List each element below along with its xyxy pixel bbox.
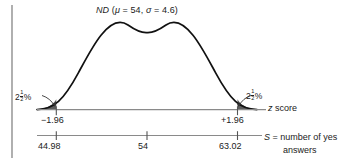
z-tick-label-negative: −1.96 <box>41 116 64 125</box>
left-percent-whole: 2 <box>15 92 20 102</box>
s-tick-label-right: 63.02 <box>219 142 242 151</box>
sigma-equals: = <box>151 5 162 15</box>
title-distribution-code: ND <box>96 5 109 15</box>
normal-distribution-figure: ND (μ = 54, σ = 4.6) 212% 212% z score −… <box>0 0 356 162</box>
normal-curve <box>37 22 257 109</box>
z-score-axis-label: z score <box>268 104 297 113</box>
z-score-word: score <box>273 103 298 113</box>
right-percent-whole: 2 <box>246 91 251 101</box>
s-tick-label-center: 54 <box>138 142 148 151</box>
left-percent-sign: % <box>24 92 32 102</box>
left-tail-percent-label: 212% <box>15 90 31 103</box>
title-close-paren: ) <box>175 5 178 15</box>
sigma-value: 4.6 <box>162 5 175 15</box>
s-tick-label-left: 44.98 <box>38 142 61 151</box>
chart-title: ND (μ = 54, σ = 4.6) <box>96 6 178 15</box>
right-tail-percent-label: 212% <box>246 89 262 102</box>
s-axis-label-line2: answers <box>264 144 337 157</box>
right-percent-sign: % <box>255 91 263 101</box>
z-tick-label-positive: +1.96 <box>221 116 244 125</box>
mu-value: 54 <box>131 5 141 15</box>
mu-equals: = <box>120 5 131 15</box>
s-axis-label: S = number of yes answers <box>264 131 337 157</box>
s-axis-label-line1: = number of yes <box>270 132 337 142</box>
